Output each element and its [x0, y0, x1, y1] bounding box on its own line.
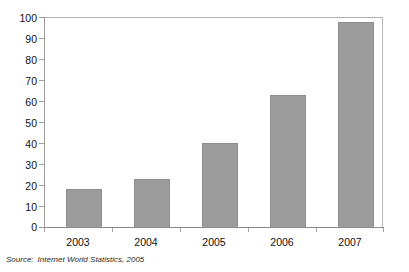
y-axis-labels: 100 90 80 70 60 50 40 30 20 10 0: [0, 0, 37, 272]
source-text: Internet World Statistics, 2005: [38, 255, 145, 264]
y-axis-tick-label: 100: [0, 13, 37, 23]
x-axis-tick: [316, 228, 317, 232]
y-axis-tick-label: 80: [0, 55, 37, 65]
bar-2004[interactable]: [134, 179, 170, 228]
x-axis-tick: [180, 228, 181, 232]
x-axis-label-2005: 2005: [180, 236, 248, 248]
y-axis-tick-label: 60: [0, 97, 37, 107]
source-note: Source:Internet World Statistics, 2005: [6, 255, 144, 265]
x-axis-label-2006: 2006: [248, 236, 316, 248]
bar-chart-figure: 100 90 80 70 60 50 40 30 20 10 0 2003 20…: [0, 0, 409, 272]
x-axis-tick: [248, 228, 249, 232]
y-axis-tick-label: 10: [0, 202, 37, 212]
bar-2005[interactable]: [202, 143, 238, 228]
x-axis-tick: [112, 228, 113, 232]
y-axis-tick-label: 40: [0, 139, 37, 149]
y-axis-tick-label: 20: [0, 181, 37, 191]
y-axis-tick-label: 30: [0, 160, 37, 170]
y-axis-tick-label: 0: [0, 222, 37, 232]
x-axis-tick: [383, 228, 384, 232]
x-axis-tick: [44, 228, 45, 232]
x-axis-label-2007: 2007: [316, 236, 384, 248]
x-axis-label-2003: 2003: [44, 236, 112, 248]
y-axis-tick-label: 90: [0, 34, 37, 44]
bar-2003[interactable]: [66, 189, 102, 228]
x-axis-label-2004: 2004: [112, 236, 180, 248]
y-axis-tick-label: 70: [0, 76, 37, 86]
bar-2007[interactable]: [338, 22, 374, 228]
y-axis-tick-label: 50: [0, 118, 37, 128]
source-label: Source:: [6, 255, 34, 264]
bars-container: [44, 17, 383, 228]
bar-2006[interactable]: [270, 95, 306, 228]
